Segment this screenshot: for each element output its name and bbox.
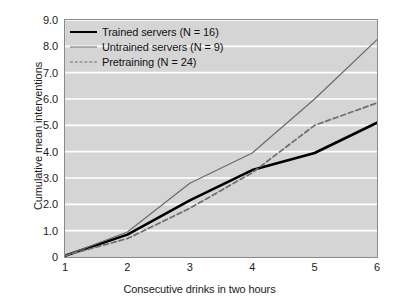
legend-item-label: Untrained servers (N = 9) [102,41,223,53]
y-tick-label: 9.0 [20,14,58,26]
x-axis-title: Consecutive drinks in two hours [0,283,399,295]
y-tick-label: 4.0 [20,146,58,158]
legend-item: Untrained servers (N = 9) [68,39,223,54]
y-tick-label: 2.0 [20,198,58,210]
x-tick-label: 2 [124,261,130,273]
y-tick-label: 7.0 [20,67,58,79]
y-tick-label: 0 [20,251,58,263]
x-tick-label: 5 [312,261,318,273]
y-axis-tick-labels: 01.02.03.04.05.06.07.08.09.0 [20,0,58,306]
legend-item: Trained servers (N = 16) [68,24,223,39]
solid-thick-line-icon [68,26,98,38]
y-tick-label: 3.0 [20,172,58,184]
legend: Trained servers (N = 16)Untrained server… [66,21,228,72]
x-tick-label: 3 [187,261,193,273]
x-tick-label: 4 [249,261,255,273]
x-tick-label: 1 [62,261,68,273]
chart-figure: Cumulative mean interventions 01.02.03.0… [0,0,399,306]
series-line-1 [65,123,377,256]
legend-item-label: Pretraining (N = 24) [102,56,196,68]
dashed-line-icon [68,56,98,68]
solid-thin-line-icon [68,41,98,53]
x-axis-tick-labels: 123456 [64,261,378,279]
x-tick-label: 6 [374,261,380,273]
y-tick-label: 1.0 [20,225,58,237]
y-tick-label: 8.0 [20,40,58,52]
y-tick-label: 5.0 [20,119,58,131]
legend-item: Pretraining (N = 24) [68,54,223,69]
y-tick-label: 6.0 [20,93,58,105]
legend-item-label: Trained servers (N = 16) [102,26,219,38]
